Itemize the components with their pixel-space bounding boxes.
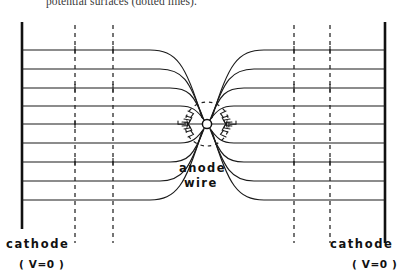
field-line-diagram <box>0 0 413 275</box>
arrowhead <box>230 121 236 124</box>
field-line <box>22 50 202 118</box>
cathode-right-label: cathode <box>330 237 393 251</box>
field-line <box>211 130 385 181</box>
cathode-left-label: cathode <box>6 237 69 251</box>
field-line <box>211 69 385 119</box>
anode-label-line1: anode <box>179 161 226 175</box>
arrowhead <box>178 121 184 124</box>
field-line <box>212 50 385 118</box>
field-lines-right <box>209 50 385 200</box>
field-line <box>209 127 385 143</box>
anode-wire-cross-section <box>202 119 211 128</box>
field-line <box>210 88 385 120</box>
cathode-right-voltage: ( V=0 ) <box>352 258 397 270</box>
field-line <box>22 131 202 200</box>
field-line <box>212 131 385 200</box>
field-line <box>210 129 385 162</box>
cathode-left-voltage: ( V=0 ) <box>19 258 64 270</box>
anode-label-line2: wire <box>184 176 218 190</box>
figure-page: potential surfaces (dotted lines). <box>0 0 413 275</box>
field-line <box>209 106 385 121</box>
